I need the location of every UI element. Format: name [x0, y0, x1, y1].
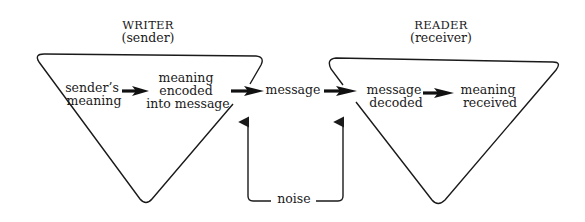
arrow-message-to-decoded — [324, 86, 357, 96]
arrow-encoded-to-message — [231, 86, 264, 96]
writer-triangle — [37, 54, 262, 203]
meaning-encoded-node: meaning encoded into message — [146, 70, 230, 111]
noise-arrow-right — [316, 122, 343, 201]
meaning-received-node: meaning received — [461, 82, 520, 110]
arrow-sender-to-encoded — [122, 86, 149, 96]
communication-diagram: WRITER (sender) READER (receiver) sender… — [0, 0, 585, 222]
message-node: message — [266, 82, 321, 97]
reader-triangle — [329, 58, 558, 204]
senders-meaning-node: sender’s meaning — [65, 80, 123, 108]
writer-subtitle: (sender) — [122, 30, 175, 45]
reader-subtitle: (receiver) — [410, 30, 472, 45]
noise-arrow-left — [248, 122, 271, 201]
noise-node: noise — [277, 191, 310, 206]
message-decoded-node: message decoded — [367, 82, 426, 110]
arrow-decoded-to-received — [423, 88, 454, 98]
